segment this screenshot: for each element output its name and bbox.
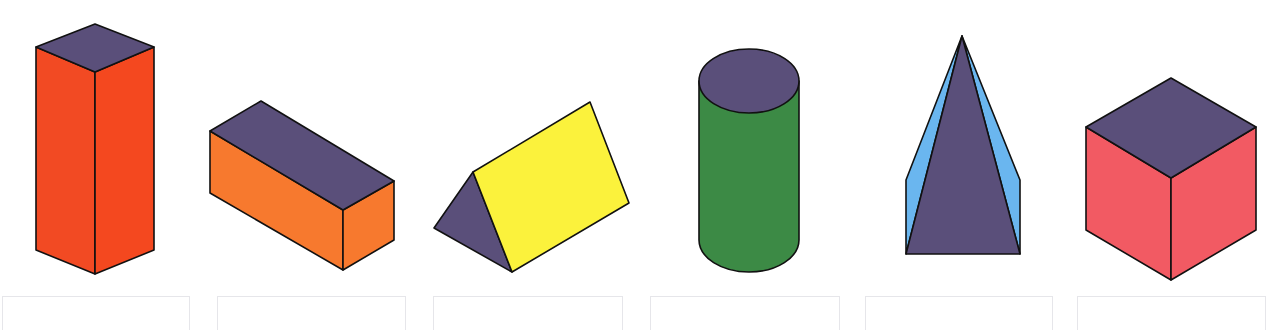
- pyramid-shape: [906, 36, 1020, 254]
- answer-box-4[interactable]: [650, 296, 840, 330]
- answer-box-2[interactable]: [217, 296, 406, 330]
- rectangular-prism-shape: [210, 101, 394, 270]
- square-prism-shape: [36, 24, 154, 274]
- cube-shape: [1086, 78, 1256, 280]
- answer-box-1[interactable]: [2, 296, 190, 330]
- cylinder-shape: [699, 49, 799, 272]
- answer-box-3[interactable]: [433, 296, 623, 330]
- answer-box-6[interactable]: [1077, 296, 1266, 330]
- triangular-prism-shape: [434, 102, 629, 272]
- answer-box-5[interactable]: [865, 296, 1053, 330]
